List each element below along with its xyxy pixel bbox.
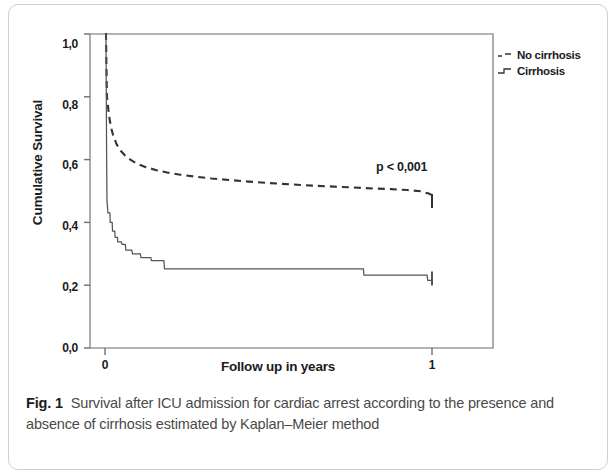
figure-caption: Fig. 1 Survival after ICU admission for … [26, 393, 586, 435]
step-line-icon [497, 65, 514, 77]
xtick-label-1: 1 [420, 358, 444, 372]
ytick-label-1: 1,0 [38, 37, 78, 51]
p-value-annotation: p < 0,001 [376, 160, 427, 174]
axis-ticks [84, 34, 432, 355]
ytick-label-5: 0,2 [38, 280, 78, 294]
x-axis-label: Follow up in years [188, 359, 368, 374]
ytick-label-6: 0,0 [38, 341, 78, 355]
figure-card: 1,0 0,8 0,6 0,4 0,2 0,0 0 1 Cumulative S… [0, 0, 613, 476]
y-axis-label: Cumulative Survival [30, 63, 45, 263]
chart-plot-area: 1,0 0,8 0,6 0,4 0,2 0,0 0 1 Cumulative S… [0, 0, 613, 392]
figure-label: Fig. 1 [26, 395, 63, 411]
xtick-label-0: 0 [93, 358, 117, 372]
legend-item-no-cirrhosis: No cirrhosis [497, 47, 609, 63]
series-line-cirrhosis [105, 34, 432, 280]
legend-label-no-cirrhosis: No cirrhosis [517, 49, 581, 61]
axis-frame [90, 34, 493, 348]
legend-label-cirrhosis: Cirrhosis [517, 65, 565, 77]
figure-caption-text: Survival after ICU admission for cardiac… [26, 395, 554, 432]
chart-legend: No cirrhosis Cirrhosis [497, 47, 609, 79]
dashed-line-icon [497, 49, 514, 61]
legend-item-cirrhosis: Cirrhosis [497, 63, 609, 79]
